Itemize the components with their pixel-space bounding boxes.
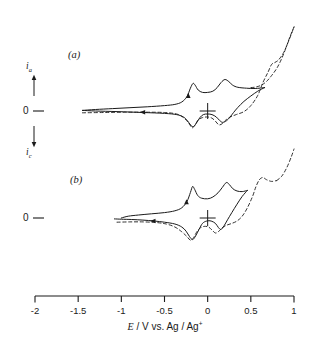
- voltammogram-curves: [82, 27, 294, 240]
- zero-label-panel-a: 0: [23, 106, 29, 116]
- curve-panel-a-solid-reverse: [82, 88, 264, 127]
- axis-markers: [32, 75, 216, 226]
- cyclic-voltammogram-figure: (a) (b) ia 0 ic 0 -2-1.5-1-0.500.51 E / …: [0, 0, 316, 342]
- cathodic-current-subscript: c: [29, 152, 32, 159]
- curve-panel-b-dashed-return: [277, 149, 294, 181]
- x-axis: [35, 296, 294, 303]
- x-axis-title-superscript: +: [199, 320, 203, 327]
- scan-direction-arrow-a-reverse: [140, 110, 145, 114]
- scan-direction-arrow-a-forward: [186, 93, 191, 98]
- x-axis-tick-label: 1: [291, 306, 296, 316]
- x-axis-tick-label: -2: [31, 306, 39, 316]
- zero-label-panel-b: 0: [23, 213, 29, 223]
- x-axis-tick-label: -0.5: [156, 306, 172, 316]
- x-axis-tick-label: 0: [205, 306, 210, 316]
- up-arrow-icon: [32, 75, 37, 80]
- curve-panel-a-dashed-return: [251, 27, 294, 88]
- x-axis-tick-label: 0.5: [244, 306, 257, 316]
- panel-label-b: (b): [70, 175, 82, 186]
- x-axis-tick-label: -1: [117, 306, 125, 316]
- x-axis-title: E / V vs. Ag / Ag+: [128, 321, 203, 332]
- anodic-current-subscript: a: [29, 66, 32, 73]
- down-arrow-icon: [32, 142, 37, 147]
- curve-panel-b-dashed-extended: [117, 178, 277, 241]
- cathodic-current-symbol: ic: [26, 148, 32, 159]
- curve-panel-b-solid-forward: [121, 182, 247, 218]
- curve-panel-a-solid-forward: [82, 79, 264, 110]
- x-axis-tick-label: -1.5: [70, 306, 86, 316]
- panel-label-a: (a): [68, 50, 80, 61]
- plot-canvas: [0, 0, 316, 342]
- x-axis-title-rest: / V vs. Ag / Ag: [134, 321, 199, 332]
- curve-panel-a-dashed-extended: [82, 27, 294, 128]
- anodic-current-symbol: ia: [26, 62, 32, 73]
